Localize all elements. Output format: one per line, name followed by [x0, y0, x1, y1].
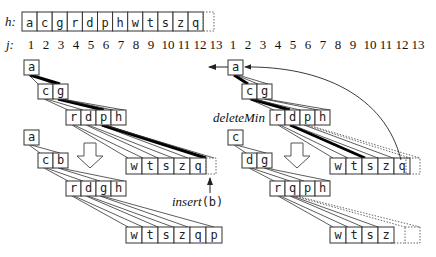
right_after-level2-cell: p: [300, 181, 315, 196]
index-row-right: 12345678910111213: [230, 37, 425, 52]
right-after-tree: cdgrqphwtsz: [228, 130, 394, 243]
right_before-level2-cell: h: [315, 110, 330, 125]
index-label: 4: [275, 37, 282, 52]
left_before-level3-cell: s: [158, 158, 174, 174]
svg-text:g: g: [261, 84, 268, 98]
right_before-level3-cell: w: [330, 158, 346, 174]
index-label: 10: [162, 37, 175, 52]
left_after-level2-cell: g: [96, 181, 111, 196]
left_before-level3-cell: z: [174, 158, 190, 174]
insert-label: insert(b): [172, 194, 223, 209]
right_before-level1-cell: c: [242, 84, 257, 99]
right_before-level1-cell: g: [257, 84, 272, 99]
right_after-level2-cell: q: [285, 181, 300, 196]
index-label: 1: [28, 37, 35, 52]
left_before-level1-cell: g: [53, 84, 68, 99]
svg-text:d: d: [86, 16, 93, 30]
svg-text:w: w: [334, 228, 342, 242]
right_before-level3-cell: s: [362, 158, 378, 174]
svg-text:w: w: [130, 159, 138, 173]
left_after-level2-cell: r: [66, 181, 81, 196]
index-label: 11: [178, 37, 191, 52]
index-label: 2: [43, 37, 50, 52]
index-label: 11: [380, 37, 393, 52]
right_after-level0-cell: c: [228, 130, 243, 145]
array-h-cell: g: [52, 12, 67, 31]
svg-text:w: w: [334, 159, 342, 173]
svg-text:q: q: [194, 228, 201, 242]
delete-min-label: deleteMin: [213, 110, 265, 125]
svg-text:h: h: [115, 110, 122, 124]
svg-text:z: z: [178, 228, 185, 242]
array-h-cell: z: [173, 12, 188, 31]
index-label: 12: [396, 37, 409, 52]
left_after-level2-cell: d: [81, 181, 96, 196]
index-label: 13: [412, 37, 425, 52]
svg-text:r: r: [70, 181, 77, 195]
svg-text:t: t: [147, 16, 154, 30]
index-label: 4: [73, 37, 80, 52]
index-label: 1: [230, 37, 237, 52]
left_before-level2-cell: r: [66, 110, 81, 125]
left_after-level3-cell: z: [174, 227, 190, 243]
heap-diagram: h: acgrdphwtszq j: 12345678910111213 123…: [0, 0, 436, 257]
index-label: 9: [350, 37, 357, 52]
left_after-level1-cell: c: [38, 153, 53, 168]
svg-text:t: t: [146, 228, 153, 242]
svg-text:c: c: [42, 84, 49, 98]
left_after-level1-cell: b: [53, 153, 68, 168]
left_after-level3-cell: t: [142, 227, 158, 243]
svg-text:g: g: [57, 84, 64, 98]
index-label: 7: [320, 37, 327, 52]
label-h: h:: [5, 14, 16, 29]
index-label: 3: [260, 37, 267, 52]
left_before-level1-cell: c: [38, 84, 53, 99]
right_before-level3-cell: z: [378, 158, 394, 174]
left_before-level3-cell: w: [126, 158, 142, 174]
svg-text:p: p: [304, 110, 311, 124]
index-label: 6: [103, 37, 110, 52]
svg-text:z: z: [382, 159, 389, 173]
svg-text:g: g: [100, 181, 107, 195]
right-after-empty-slot: [405, 227, 420, 243]
left_after-level3-cell: p: [206, 227, 222, 243]
left_after-level3-cell: s: [158, 227, 174, 243]
index-row-left: j: 12345678910111213: [4, 37, 223, 52]
svg-text:q: q: [192, 16, 199, 30]
svg-text:t: t: [350, 228, 357, 242]
index-label: 8: [335, 37, 342, 52]
left_after-level0-cell: a: [24, 130, 39, 145]
left_after-level2-cell: h: [111, 181, 126, 196]
array-h-cell: t: [143, 12, 158, 31]
right_after-level3-cell: s: [362, 227, 378, 243]
array-empty-slot: [203, 12, 214, 31]
svg-text:r: r: [70, 110, 77, 124]
index-label: 9: [148, 37, 155, 52]
svg-text:d: d: [246, 153, 253, 167]
array-h-cell: w: [128, 12, 143, 31]
array-h-cell: h: [113, 12, 128, 31]
svg-text:s: s: [162, 16, 169, 30]
array-h-cell: c: [37, 12, 52, 31]
svg-text:z: z: [178, 159, 185, 173]
array-h-cell: r: [67, 12, 82, 31]
left_before-level2-cell: h: [111, 110, 126, 125]
right_before-level2-cell: r: [270, 110, 285, 125]
transition-arrow-right: [284, 143, 310, 168]
svg-text:r: r: [274, 181, 281, 195]
array-h: h: acgrdphwtszq: [5, 12, 214, 31]
svg-text:z: z: [177, 16, 184, 30]
right_before-level3-cell: q: [394, 158, 410, 174]
svg-text:s: s: [366, 159, 373, 173]
right_after-level1-cell: d: [242, 153, 257, 168]
index-label: 10: [364, 37, 377, 52]
left_after-level3-cell: w: [126, 227, 142, 243]
svg-text:h: h: [115, 181, 122, 195]
left_before-level2-cell: p: [96, 110, 111, 125]
svg-text:g: g: [261, 153, 268, 167]
index-label: 13: [210, 37, 223, 52]
right_after-level3-cell: w: [330, 227, 346, 243]
svg-text:r: r: [71, 16, 78, 30]
array-h-cell: q: [188, 12, 203, 31]
right_before-level3-cell: t: [346, 158, 362, 174]
